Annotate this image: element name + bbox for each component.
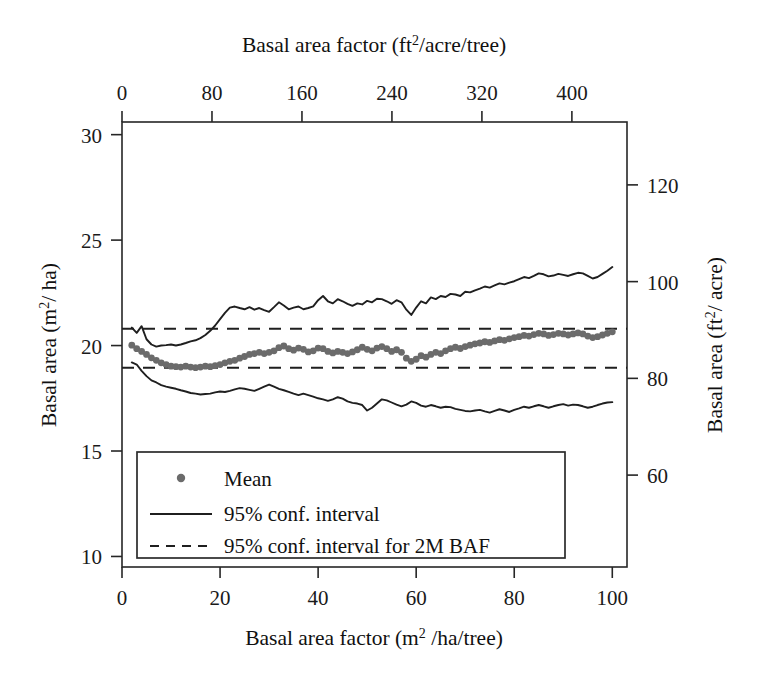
top-tick-label-160: 160 bbox=[286, 81, 318, 105]
left-tick-label-15: 15 bbox=[81, 440, 102, 464]
top-tick-label-80: 80 bbox=[201, 81, 222, 105]
right-axis-title: Basal area (ft2/ acre) bbox=[703, 257, 727, 433]
right-tick-label-100: 100 bbox=[647, 271, 679, 295]
left-tick-label-25: 25 bbox=[81, 229, 102, 253]
top-axis-title: Basal area factor (ft2/acre/tree) bbox=[242, 33, 506, 57]
top-tick-label-240: 240 bbox=[376, 81, 408, 105]
legend-mean-dot-icon bbox=[177, 474, 185, 482]
legend-label-ci: 95% conf. interval bbox=[224, 502, 380, 526]
mean-data-point bbox=[609, 328, 616, 335]
bottom-tick-label-0: 0 bbox=[117, 586, 128, 610]
right-tick-label-80: 80 bbox=[647, 367, 668, 391]
legend-label-ci-2m: 95% conf. interval for 2M BAF bbox=[224, 534, 490, 558]
bottom-tick-label-20: 20 bbox=[210, 586, 231, 610]
top-tick-label-400: 400 bbox=[556, 81, 588, 105]
top-tick-label-320: 320 bbox=[466, 81, 498, 105]
bottom-tick-label-40: 40 bbox=[308, 586, 329, 610]
left-axis-title: Basal area (m2/ ha) bbox=[37, 263, 61, 427]
mean-data-point bbox=[398, 349, 405, 356]
right-tick-label-120: 120 bbox=[647, 174, 679, 198]
basal-area-chart: Basal area factor (ft2/acre/tree) Basal … bbox=[0, 0, 758, 677]
right-tick-label-60: 60 bbox=[647, 464, 668, 488]
bottom-tick-label-60: 60 bbox=[406, 586, 427, 610]
left-tick-label-30: 30 bbox=[81, 124, 102, 148]
bottom-tick-label-80: 80 bbox=[504, 586, 525, 610]
legend-label-mean: Mean bbox=[224, 467, 272, 491]
left-tick-label-20: 20 bbox=[81, 335, 102, 359]
chart-legend: Mean 95% conf. interval 95% conf. interv… bbox=[137, 452, 565, 558]
chart-figure: Basal area factor (ft2/acre/tree) Basal … bbox=[0, 0, 758, 677]
top-tick-label-0: 0 bbox=[117, 81, 128, 105]
bottom-axis-title: Basal area factor (m2 /ha/tree) bbox=[245, 626, 503, 650]
left-tick-label-10: 10 bbox=[81, 545, 102, 569]
bottom-tick-label-100: 100 bbox=[597, 586, 629, 610]
